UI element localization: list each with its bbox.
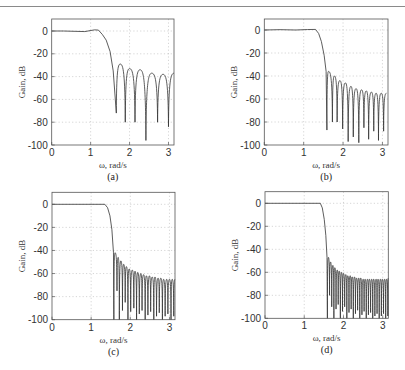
plot-d: 01230-20-40-60-80-100ω, rad/sGain, dB(d) [230, 192, 388, 357]
y-tick-label: -80 [33, 117, 48, 128]
y-axis-label: Gain, dB [17, 240, 27, 273]
x-tick-label: 1 [301, 320, 307, 331]
y-tick-label: -40 [246, 71, 261, 82]
x-tick-label: 0 [262, 147, 268, 158]
x-tick-label: 0 [262, 320, 268, 331]
x-tick-label: 3 [167, 322, 173, 333]
figure: 01230-20-40-60-80-100ω, rad/sGain, dB(a)… [0, 0, 405, 370]
y-tick-label: -40 [34, 245, 49, 256]
plot-c: 01230-20-40-60-80-100ω, rad/sGain, dB(c) [17, 192, 175, 357]
x-tick-label: 2 [340, 147, 346, 158]
y-tick-label: -100 [28, 140, 48, 151]
plot-b: 01230-20-40-60-80-100ω, rad/sGain, dB(b) [229, 19, 388, 183]
y-tick-label: 0 [42, 26, 48, 37]
x-tick-label: 0 [49, 147, 55, 158]
y-tick-label: -100 [240, 140, 260, 151]
y-tick-label: 0 [255, 198, 261, 209]
y-tick-label: -80 [34, 291, 49, 302]
x-tick-label: 3 [380, 147, 386, 158]
subfigure-caption: (c) [108, 346, 119, 358]
y-tick-label: 0 [255, 25, 261, 36]
y-axis-label: Gain, dB [17, 66, 27, 99]
x-tick-label: 3 [380, 320, 386, 331]
y-tick-label: 0 [42, 199, 48, 210]
y-tick-label: -20 [33, 48, 48, 59]
x-tick-label: 2 [127, 147, 133, 158]
y-axis-label: Gain, dB [229, 66, 239, 99]
gain-curve [52, 30, 174, 141]
gain-curve [52, 204, 175, 319]
plot-a: 01230-20-40-60-80-100ω, rad/sGain, dB(a) [17, 19, 174, 183]
x-tick-label: 1 [88, 147, 94, 158]
y-tick-label: -100 [28, 314, 48, 325]
y-tick-label: -80 [246, 117, 261, 128]
y-tick-label: -80 [247, 290, 262, 301]
gain-curve [265, 203, 388, 318]
x-tick-label: 1 [301, 147, 307, 158]
x-axis-label: ω, rad/s [100, 335, 128, 345]
x-tick-label: 0 [49, 322, 55, 333]
y-tick-label: -20 [247, 221, 262, 232]
y-tick-label: -60 [34, 268, 49, 279]
y-tick-label: -60 [246, 94, 261, 105]
subfigure-caption: (d) [321, 344, 333, 356]
y-axis-label: Gain, dB [230, 239, 240, 272]
y-tick-label: -100 [241, 313, 261, 324]
y-tick-label: -40 [33, 71, 48, 82]
x-tick-label: 1 [88, 322, 94, 333]
x-tick-label: 2 [341, 320, 347, 331]
x-axis-label: ω, rad/s [313, 333, 341, 343]
x-axis-label: ω, rad/s [312, 160, 340, 170]
y-tick-label: -20 [34, 222, 49, 233]
x-tick-label: 3 [166, 147, 172, 158]
gain-curve [264, 29, 386, 142]
y-tick-label: -60 [247, 267, 262, 278]
y-tick-label: -40 [247, 244, 262, 255]
x-axis-label: ω, rad/s [99, 160, 127, 170]
subfigure-caption: (a) [107, 171, 118, 183]
x-tick-label: 2 [128, 322, 134, 333]
subfigure-caption: (b) [320, 171, 332, 183]
y-tick-label: -20 [246, 48, 261, 59]
y-tick-label: -60 [33, 94, 48, 105]
